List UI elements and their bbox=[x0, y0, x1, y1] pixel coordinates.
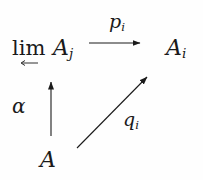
lim-operator: lim bbox=[12, 38, 45, 59]
target-base: A bbox=[166, 35, 182, 60]
q-subscript: i bbox=[135, 118, 139, 132]
limit-subscript: j bbox=[69, 45, 73, 61]
p-base: p bbox=[109, 10, 121, 32]
q-base: q bbox=[123, 108, 135, 130]
p-subscript: i bbox=[121, 20, 125, 34]
lim-text: lim bbox=[12, 36, 45, 60]
target-subscript: i bbox=[182, 45, 186, 61]
source-base: A bbox=[40, 147, 56, 172]
node-target-A-i: Ai bbox=[166, 37, 186, 59]
node-limit-A-j: Aj bbox=[53, 37, 73, 59]
commutative-diagram: lim Aj pi Ai α qi A bbox=[0, 0, 203, 180]
label-q-i: qi bbox=[123, 110, 139, 129]
node-source-A: A bbox=[40, 149, 56, 171]
alpha-text: α bbox=[12, 94, 26, 118]
label-p-i: pi bbox=[109, 12, 125, 31]
label-alpha: α bbox=[12, 96, 26, 116]
limit-base: A bbox=[53, 35, 69, 60]
arrows-layer bbox=[0, 0, 203, 180]
